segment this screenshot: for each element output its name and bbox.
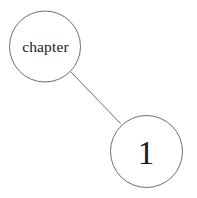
node-link-diagram: chapter 1: [0, 0, 197, 198]
node-number-label: 1: [138, 135, 155, 171]
node-chapter-label: chapter: [22, 38, 69, 55]
diagram-canvas: chapter 1: [0, 0, 197, 198]
edge-chapter-to-number[interactable]: [71, 72, 121, 124]
